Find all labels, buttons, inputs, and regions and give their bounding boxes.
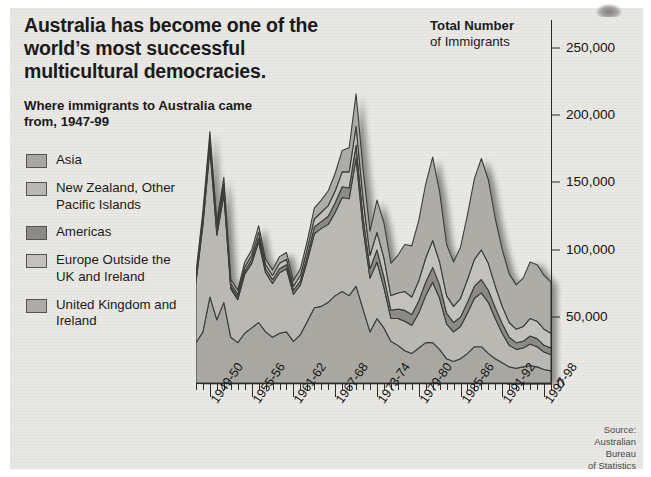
legend-item-label: United Kingdom and Ireland xyxy=(56,297,186,331)
legend-item: Europe Outside the UK and Ireland xyxy=(26,252,186,286)
legend: AsiaNew Zealand, Other Pacific IslandsAm… xyxy=(26,152,186,341)
tick-mark xyxy=(551,47,560,48)
infographic-root: Australia has become one of the world’s … xyxy=(0,0,651,477)
x-axis-minor-tick xyxy=(328,384,329,390)
y-axis-tick: 200,000 xyxy=(551,107,615,122)
tick-mark xyxy=(551,182,560,183)
y-axis-tick: 50,000 xyxy=(551,308,608,323)
x-axis-minor-tick xyxy=(363,384,364,390)
source-line: Australian xyxy=(548,436,636,448)
x-axis-minor-tick xyxy=(454,384,455,390)
source-note: Source:AustralianBureauof Statistics xyxy=(548,424,636,472)
x-axis-minor-tick xyxy=(412,384,413,390)
x-axis-minor-tick xyxy=(447,384,448,390)
x-axis-minor-tick xyxy=(245,384,246,390)
legend-swatch xyxy=(26,254,47,268)
y-axis-tick-label: 200,000 xyxy=(566,107,615,122)
legend-swatch xyxy=(26,299,47,313)
legend-item-label: New Zealand, Other Pacific Islands xyxy=(56,180,186,214)
legend-swatch xyxy=(26,182,47,196)
x-axis-minor-tick xyxy=(530,384,531,390)
legend-item: New Zealand, Other Pacific Islands xyxy=(26,180,186,214)
tick-mark xyxy=(551,316,560,317)
stacked-area-plot xyxy=(196,20,551,383)
area-chart-svg xyxy=(196,20,561,385)
y-axis-tick-label: 150,000 xyxy=(566,174,615,189)
x-axis-minor-tick xyxy=(370,384,371,390)
y-axis-tick-label: 50,000 xyxy=(566,308,608,323)
source-line: Source: xyxy=(548,424,636,436)
legend-item: Americas xyxy=(26,224,186,241)
tick-mark xyxy=(551,249,560,250)
y-axis-tick: 250,000 xyxy=(551,39,615,54)
x-axis-minor-tick xyxy=(280,384,281,390)
x-axis-minor-tick xyxy=(321,384,322,390)
legend-item: Asia xyxy=(26,152,186,169)
y-axis-tick: 150,000 xyxy=(551,174,615,189)
x-axis-minor-tick xyxy=(537,384,538,390)
x-axis-minor-tick xyxy=(405,384,406,390)
x-axis-minor-tick xyxy=(488,384,489,390)
legend-swatch xyxy=(26,226,47,240)
legend-item: United Kingdom and Ireland xyxy=(26,297,186,331)
legend-item-label: Asia xyxy=(56,152,82,169)
y-axis-tick: 100,000 xyxy=(551,241,615,256)
y-axis-line xyxy=(551,20,552,384)
x-axis-minor-tick xyxy=(238,384,239,390)
x-axis-minor-tick xyxy=(196,384,197,390)
source-line: of Statistics xyxy=(548,460,636,472)
x-axis-labels: 1949-501955-561961-621967-681973-741979-… xyxy=(196,398,576,468)
print-smudge xyxy=(596,4,622,17)
x-axis-minor-tick xyxy=(203,384,204,390)
source-line: Bureau xyxy=(548,448,636,460)
y-axis-tick-label: 250,000 xyxy=(566,39,615,54)
legend-item-label: Americas xyxy=(56,224,111,241)
x-axis-minor-tick xyxy=(286,384,287,390)
legend-item-label: Europe Outside the UK and Ireland xyxy=(56,252,186,286)
tick-mark xyxy=(551,115,560,116)
y-axis-tick-label: 100,000 xyxy=(566,241,615,256)
legend-swatch xyxy=(26,154,47,168)
x-axis-minor-tick xyxy=(495,384,496,390)
